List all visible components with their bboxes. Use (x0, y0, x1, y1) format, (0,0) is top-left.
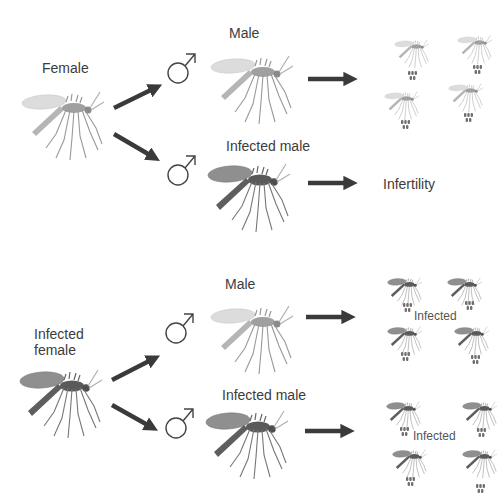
male-symbol-icon (165, 313, 195, 345)
outcome-infected-label: Infected (413, 428, 456, 444)
egg-cluster-icon (476, 484, 486, 494)
outcome-infected-label: Infected (414, 308, 457, 324)
offspring-mosquito-icon (452, 325, 492, 355)
offspring-mosquito-icon (385, 325, 425, 355)
branch-label-infected-male: Infected male (222, 387, 306, 403)
egg-cluster-icon (465, 301, 475, 311)
branch-label-male: Male (225, 276, 255, 292)
egg-cluster-icon (401, 352, 411, 362)
egg-cluster-icon (477, 428, 487, 438)
offspring-mosquito-icon (460, 448, 500, 478)
male-symbol-icon (165, 408, 195, 440)
egg-cluster-icon (471, 355, 481, 365)
offspring-mosquito-icon (385, 276, 425, 306)
offspring-mosquito-icon (390, 448, 430, 478)
offspring-mosquito-icon (384, 400, 424, 430)
mosquito-male-icon (205, 302, 297, 382)
mosquito-infected-male-icon (200, 407, 292, 487)
egg-cluster-icon (403, 303, 413, 313)
egg-cluster-icon (400, 427, 410, 437)
egg-cluster-icon (406, 477, 416, 487)
offspring-mosquito-icon (460, 400, 500, 430)
